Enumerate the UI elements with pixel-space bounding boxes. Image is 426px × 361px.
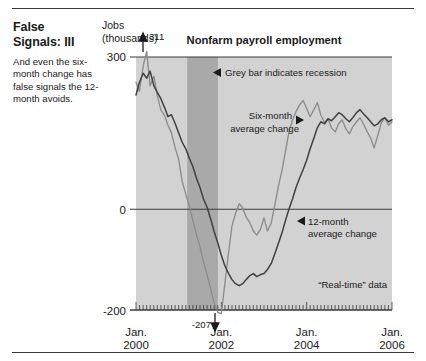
x-tick-label-month-3: Jan.: [381, 326, 403, 338]
x-tick-label-year-0: 2000: [123, 339, 149, 351]
x-tick-label-month-2: Jan.: [296, 326, 318, 338]
chart-title: Nonfarm payroll employment: [187, 34, 342, 46]
recession-band: [187, 57, 218, 310]
x-tick-label-month-0: Jan.: [125, 326, 147, 338]
nonfarm-payroll-chart: 300 0 -200 Jobs (thousands) Nonfarm payr…: [0, 0, 426, 361]
trough-annotation-label: -207: [192, 319, 211, 330]
x-tick-label-year-3: 2006: [379, 339, 405, 351]
x-tick-label-year-2: 2004: [294, 339, 320, 351]
x-tick-label-year-1: 2002: [209, 339, 235, 351]
y-axis-title-line1: Jobs: [102, 19, 124, 31]
peak-annotation-label: 311: [149, 31, 164, 42]
peak-annotation: 311: [139, 31, 164, 52]
y-tick-label-300: 300: [107, 51, 126, 63]
plot-background: [136, 57, 392, 310]
chart-container: 300 0 -200 Jobs (thousands) Nonfarm payr…: [0, 0, 426, 361]
real-time-note-label: “Real-time” data: [318, 279, 387, 290]
six-month-label-line2: average change: [230, 123, 299, 134]
twelve-month-label-line2: average change: [308, 228, 377, 239]
y-tick-label-0: 0: [120, 204, 126, 216]
recession-note-label: Grey bar indicates recession: [225, 67, 347, 78]
trough-annotation: -207: [192, 313, 219, 331]
six-month-label-line1: Six-month: [249, 110, 292, 121]
twelve-month-label-line1: 12-month: [308, 216, 349, 227]
x-axis-tick-labels: Jan.2000Jan.2002Jan.2004Jan.2006: [123, 326, 405, 351]
recession-note-annotation: Grey bar indicates recession: [213, 67, 347, 78]
y-tick-label-minus200: -200: [103, 305, 126, 317]
